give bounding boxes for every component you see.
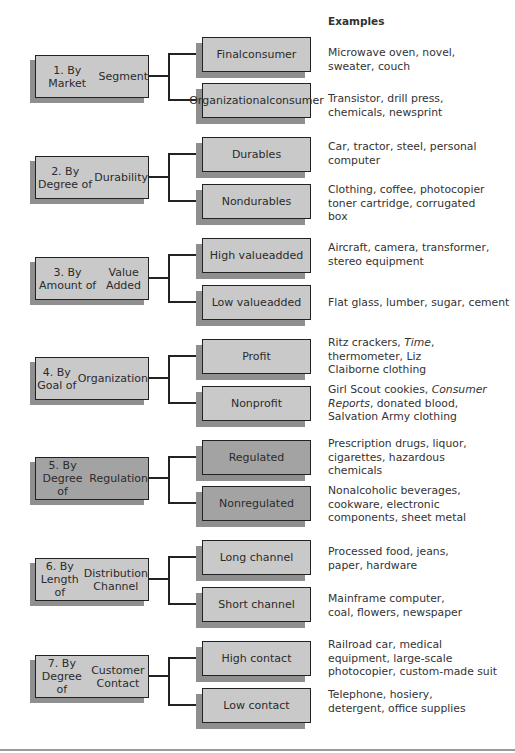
connector-horizontal <box>149 75 169 77</box>
text-line: Reports, donated blood, <box>328 397 458 410</box>
text-line: 6. By Length of <box>36 560 84 599</box>
text-line: paper, hardware <box>328 559 417 572</box>
example-text: Car, tractor, steel, personalcomputer <box>328 140 513 167</box>
text-line: Durability <box>94 171 148 184</box>
text-line: 5. By Degree of <box>36 459 89 498</box>
text-line: toner cartridge, corrugated <box>328 197 475 210</box>
text-line: Processed food, jeans, <box>328 545 449 558</box>
connector-vertical <box>168 355 170 404</box>
example-text: Mainframe computer,coal, flowers, newspa… <box>328 592 513 619</box>
connector-vertical <box>168 153 170 202</box>
text-line: High value <box>210 249 269 262</box>
text-line: Nonprofit <box>231 397 282 410</box>
text-line: Organizational <box>189 94 269 107</box>
text-line: Clothing, coffee, photocopier <box>328 183 485 196</box>
subcategory-box: Nonregulated <box>202 486 311 521</box>
subcategory-box: Short channel <box>202 587 311 622</box>
example-text: Nonalcoholic beverages,cookware, electro… <box>328 484 513 525</box>
text-line: chemicals, newsprint <box>328 106 442 119</box>
subcategory-box: Durables <box>202 137 311 172</box>
example-text: Flat glass, lumber, sugar, cement <box>328 296 513 310</box>
subcategory-box: Finalconsumer <box>202 37 311 72</box>
example-text: Processed food, jeans,paper, hardware <box>328 545 513 572</box>
text-line: Salvation Army clothing <box>328 410 457 423</box>
text-line: Long channel <box>220 551 294 564</box>
connector-vertical <box>168 556 170 605</box>
text-line: 4. By Goal of <box>36 366 78 392</box>
example-text: Microwave oven, novel,sweater, couch <box>328 46 513 73</box>
text-line: added <box>267 296 301 309</box>
text-line: consumer <box>242 48 296 61</box>
subcategory-box: Profit <box>202 339 311 374</box>
text-line: stereo equipment <box>328 255 424 268</box>
category-box-6: 6. By Length ofDistribution Channel <box>35 558 149 601</box>
connector-horizontal <box>149 176 169 178</box>
text-line: Customer Contact <box>88 664 148 690</box>
text-line: Short channel <box>218 598 295 611</box>
text-line: Claiborne clothing <box>328 363 426 376</box>
examples-header: Examples <box>328 15 384 27</box>
subcategory-box: Regulated <box>202 440 311 475</box>
text-line: 7. By Degree of <box>36 657 88 696</box>
text-line: Final <box>217 48 242 61</box>
text-line: Ritz crackers, Time, <box>328 336 434 349</box>
text-line: sweater, couch <box>328 60 410 73</box>
category-box-5: 5. By Degree ofRegulation <box>35 457 149 500</box>
subcategory-box: Organizationalconsumer <box>202 83 311 118</box>
text-line: cookware, electronic <box>328 498 440 511</box>
text-line: Railroad car, medical <box>328 638 442 651</box>
example-text: Ritz crackers, Time,thermometer, LizClai… <box>328 336 513 377</box>
text-line: Telephone, hosiery, <box>328 688 433 701</box>
text-line: Distribution Channel <box>84 567 148 593</box>
example-text: Telephone, hosiery,detergent, office sup… <box>328 688 513 715</box>
text-line: Aircraft, camera, transformer, <box>328 241 489 254</box>
text-line: High contact <box>222 652 292 665</box>
text-line: components, sheet metal <box>328 511 466 524</box>
subcategory-box: Nondurables <box>202 184 311 219</box>
example-text: Girl Scout cookies, ConsumerReports, don… <box>328 383 513 424</box>
bottom-divider <box>0 749 515 751</box>
text-line: thermometer, Liz <box>328 350 421 363</box>
text-line: chemicals <box>328 464 382 477</box>
text-line: box <box>328 210 348 223</box>
text-line: Prescription drugs, liquor, <box>328 437 467 450</box>
text-line: Flat glass, lumber, sugar, cement <box>328 296 509 309</box>
subcategory-box: Long channel <box>202 540 311 575</box>
category-box-1: 1. By MarketSegment <box>35 55 149 98</box>
subcategory-box: High contact <box>202 641 311 676</box>
text-line: coal, flowers, newspaper <box>328 606 462 619</box>
category-box-7: 7. By Degree ofCustomer Contact <box>35 655 149 698</box>
connector-horizontal <box>149 377 169 379</box>
subcategory-box: High valueadded <box>202 238 311 273</box>
text-line: Durables <box>232 148 281 161</box>
text-line: Regulated <box>229 451 285 464</box>
connector-vertical <box>168 53 170 101</box>
text-line: Transistor, drill press, <box>328 92 443 105</box>
text-line: Mainframe computer, <box>328 592 445 605</box>
text-line: Segment <box>99 70 149 83</box>
text-line: Nonregulated <box>219 497 294 510</box>
category-box-2: 2. By Degree ofDurability <box>35 156 149 199</box>
connector-vertical <box>168 254 170 303</box>
connector-horizontal <box>149 675 169 677</box>
text-line: Regulation <box>89 472 148 485</box>
connector-vertical <box>168 657 170 706</box>
text-line: Nonalcoholic beverages, <box>328 484 461 497</box>
category-box-4: 4. By Goal ofOrganization <box>35 357 149 400</box>
text-line: Girl Scout cookies, Consumer <box>328 383 487 396</box>
subcategory-box: Low contact <box>202 688 311 723</box>
text-line: photocopier, custom-made suit <box>328 665 497 678</box>
connector-horizontal <box>149 578 169 580</box>
text-line: consumer <box>269 94 323 107</box>
example-text: Railroad car, medicalequipment, large-sc… <box>328 638 513 679</box>
connector-vertical <box>168 456 170 504</box>
subcategory-box: Nonprofit <box>202 386 311 421</box>
example-text: Clothing, coffee, photocopiertoner cartr… <box>328 183 513 224</box>
text-line: Nondurables <box>222 195 292 208</box>
text-line: 2. By Degree of <box>36 165 94 191</box>
text-line: Microwave oven, novel, <box>328 46 455 59</box>
text-line: cigarettes, hazardous <box>328 451 445 464</box>
text-line: Car, tractor, steel, personal <box>328 140 476 153</box>
text-line: equipment, large-scale <box>328 652 452 665</box>
example-text: Prescription drugs, liquor,cigarettes, h… <box>328 437 513 478</box>
